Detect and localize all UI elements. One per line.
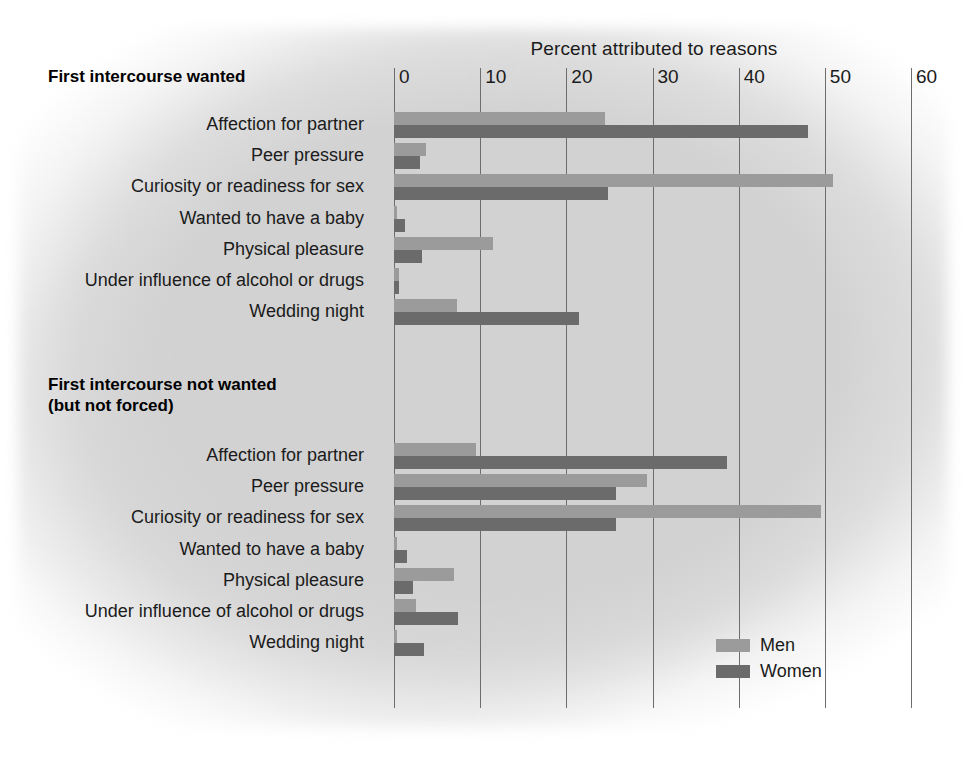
- group-heading-not-wanted-line1: First intercourse not wanted: [48, 375, 277, 394]
- bar-row: Affection for partner: [0, 112, 974, 140]
- bar-row: Wedding night: [0, 299, 974, 327]
- bar-women-affection-g1: [394, 125, 808, 138]
- bar-women-baby-g2: [394, 550, 407, 563]
- bar-men-wedding-g2: [394, 630, 397, 643]
- row-label-baby-g1: Wanted to have a baby: [4, 208, 364, 229]
- bar-women-affection-g2: [394, 456, 727, 469]
- bar-women-pleasure-g2: [394, 581, 413, 594]
- bar-men-baby-g1: [394, 206, 397, 219]
- chart-legend: Men Women: [716, 632, 822, 684]
- bar-pair: [394, 505, 914, 533]
- group-heading-not-wanted-line2: (but not forced): [48, 396, 174, 415]
- row-label-affection-g2: Affection for partner: [4, 445, 364, 466]
- bar-row: Physical pleasure: [0, 237, 974, 265]
- bar-row: Peer pressure: [0, 143, 974, 171]
- legend-swatch-women: [716, 665, 750, 678]
- row-label-affection-g1: Affection for partner: [4, 114, 364, 135]
- bar-women-curiosity-g1: [394, 187, 608, 200]
- bar-pair: [394, 237, 914, 265]
- row-label-alcohol-g1: Under influence of alcohol or drugs: [4, 270, 364, 291]
- x-tick-label-50: 50: [825, 66, 851, 88]
- group-heading-wanted-text: First intercourse wanted: [48, 67, 245, 86]
- bar-men-peer-g1: [394, 143, 426, 156]
- bar-pair: [394, 474, 914, 502]
- bar-men-curiosity-g1: [394, 174, 833, 187]
- bar-men-pleasure-g1: [394, 237, 493, 250]
- bar-row: Physical pleasure: [0, 568, 974, 596]
- x-tick-label-0: 0: [394, 66, 410, 88]
- bar-men-alcohol-g2: [394, 599, 416, 612]
- chart-title: Percent attributed to reasons: [394, 38, 914, 60]
- bar-men-affection-g1: [394, 112, 605, 125]
- bar-row: Affection for partner: [0, 443, 974, 471]
- bar-pair: [394, 143, 914, 171]
- bar-pair: [394, 599, 914, 627]
- legend-swatch-men: [716, 639, 750, 652]
- bar-row: Wedding night: [0, 630, 974, 658]
- bar-women-pleasure-g1: [394, 250, 422, 263]
- bar-row: Curiosity or readiness for sex: [0, 174, 974, 202]
- bar-pair: [394, 443, 914, 471]
- row-label-wedding-g2: Wedding night: [4, 632, 364, 653]
- bar-pair: [394, 537, 914, 565]
- bar-women-curiosity-g2: [394, 518, 616, 531]
- row-label-baby-g2: Wanted to have a baby: [4, 539, 364, 560]
- bar-women-peer-g2: [394, 487, 616, 500]
- bar-women-baby-g1: [394, 219, 405, 232]
- x-tick-label-60: 60: [911, 66, 937, 88]
- x-tick-label-10: 10: [480, 66, 506, 88]
- bar-pair: [394, 568, 914, 596]
- bar-pair: [394, 299, 914, 327]
- bar-men-curiosity-g2: [394, 505, 821, 518]
- chart-canvas: Percent attributed to reasons 0102030405…: [0, 0, 974, 762]
- row-label-pleasure-g2: Physical pleasure: [4, 570, 364, 591]
- bar-men-wedding-g1: [394, 299, 457, 312]
- bar-row: Wanted to have a baby: [0, 537, 974, 565]
- bar-row: Under influence of alcohol or drugs: [0, 268, 974, 296]
- bar-row: Peer pressure: [0, 474, 974, 502]
- row-label-peer-g1: Peer pressure: [4, 145, 364, 166]
- legend-label-men: Men: [760, 635, 795, 656]
- bar-men-peer-g2: [394, 474, 647, 487]
- legend-item-women: Women: [716, 658, 822, 684]
- x-tick-label-20: 20: [566, 66, 592, 88]
- group-heading-wanted: First intercourse wanted: [48, 66, 378, 87]
- bar-men-pleasure-g2: [394, 568, 454, 581]
- bar-pair: [394, 174, 914, 202]
- bar-women-peer-g1: [394, 156, 420, 169]
- x-tick-label-30: 30: [653, 66, 679, 88]
- group-heading-not-wanted: First intercourse not wanted (but not fo…: [48, 374, 378, 416]
- bar-women-alcohol-g1: [394, 281, 399, 294]
- row-label-peer-g2: Peer pressure: [4, 476, 364, 497]
- row-label-pleasure-g1: Physical pleasure: [4, 239, 364, 260]
- bar-women-wedding-g1: [394, 312, 579, 325]
- legend-item-men: Men: [716, 632, 822, 658]
- bar-pair: [394, 268, 914, 296]
- bar-pair: [394, 630, 914, 658]
- bar-men-alcohol-g1: [394, 268, 399, 281]
- bar-pair: [394, 112, 914, 140]
- bar-men-baby-g2: [394, 537, 397, 550]
- legend-label-women: Women: [760, 661, 822, 682]
- bar-women-alcohol-g2: [394, 612, 458, 625]
- bar-row: Under influence of alcohol or drugs: [0, 599, 974, 627]
- bar-women-wedding-g2: [394, 643, 424, 656]
- row-label-wedding-g1: Wedding night: [4, 301, 364, 322]
- bar-row: Wanted to have a baby: [0, 206, 974, 234]
- row-label-curiosity-g1: Curiosity or readiness for sex: [4, 176, 364, 197]
- bar-row: Curiosity or readiness for sex: [0, 505, 974, 533]
- bar-pair: [394, 206, 914, 234]
- x-tick-label-40: 40: [739, 66, 765, 88]
- row-label-curiosity-g2: Curiosity or readiness for sex: [4, 507, 364, 528]
- row-label-alcohol-g2: Under influence of alcohol or drugs: [4, 601, 364, 622]
- bar-men-affection-g2: [394, 443, 476, 456]
